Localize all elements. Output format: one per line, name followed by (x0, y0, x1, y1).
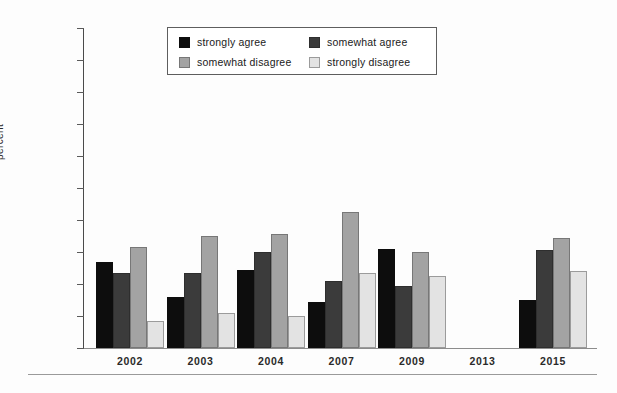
bar (519, 300, 536, 348)
x-tick-label: 2015 (513, 355, 593, 367)
bar (429, 276, 446, 348)
legend-item-somewhat-agree: somewhat agree (309, 34, 407, 50)
bar (342, 212, 359, 348)
bar (130, 247, 147, 348)
bar (288, 316, 305, 348)
y-tick-mark (77, 252, 84, 253)
legend-label: strongly disagree (327, 56, 410, 68)
bar (570, 271, 587, 348)
y-tick-mark (77, 284, 84, 285)
y-axis-title: percent (0, 124, 5, 160)
x-tick-label: 2002 (90, 355, 170, 367)
y-tick-mark (77, 92, 84, 93)
y-tick-mark (77, 60, 84, 61)
y-tick-mark (77, 124, 84, 125)
x-tick-label: 2013 (443, 355, 523, 367)
legend-label: somewhat agree (327, 36, 407, 48)
y-tick-mark (77, 348, 84, 349)
legend-swatch-icon (309, 37, 320, 48)
bar (536, 250, 553, 348)
legend-item-somewhat-disagree: somewhat disagree (179, 54, 291, 70)
bar (113, 273, 130, 348)
bars-layer (84, 28, 597, 348)
legend-label: somewhat disagree (197, 56, 291, 68)
bar (201, 236, 218, 348)
y-tick-mark (77, 188, 84, 189)
x-tick-label: 2009 (372, 355, 452, 367)
legend-swatch-icon (309, 57, 320, 68)
y-tick-mark (77, 220, 84, 221)
bar (237, 270, 254, 348)
legend-swatch-icon (179, 57, 190, 68)
bar (271, 234, 288, 348)
y-tick-mark (77, 28, 84, 29)
bar (412, 252, 429, 348)
chart-legend: strongly agree somewhat agree somewhat d… (167, 27, 437, 75)
x-tick-label: 2003 (161, 355, 241, 367)
legend-label: strongly agree (197, 36, 266, 48)
bar (218, 313, 235, 348)
bar (167, 297, 184, 348)
x-tick-label: 2007 (302, 355, 382, 367)
bar (254, 252, 271, 348)
bar (378, 249, 395, 348)
y-tick-mark (77, 316, 84, 317)
bar (359, 273, 376, 348)
bar-chart: percent 0102030405060708090100 200220032… (0, 0, 617, 393)
bottom-divider (28, 374, 597, 375)
legend-swatch-icon (179, 37, 190, 48)
bar (308, 302, 325, 348)
legend-item-strongly-agree: strongly agree (179, 34, 266, 50)
bar (184, 273, 201, 348)
bar (96, 262, 113, 348)
legend-item-strongly-disagree: strongly disagree (309, 54, 410, 70)
bar (325, 281, 342, 348)
x-tick-label: 2004 (231, 355, 311, 367)
x-axis-line (83, 348, 597, 349)
bar (553, 238, 570, 348)
bar (147, 321, 164, 348)
y-tick-mark (77, 156, 84, 157)
bar (395, 286, 412, 348)
